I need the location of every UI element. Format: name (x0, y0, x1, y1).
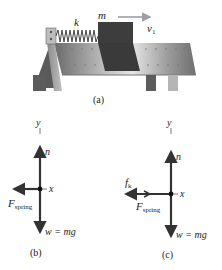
caption-b: (b) (30, 247, 42, 259)
y-axis-label: y (166, 117, 172, 128)
leg (146, 75, 156, 91)
block-shadow (98, 43, 140, 71)
normal-force-label: n (45, 146, 50, 157)
particle (169, 192, 174, 197)
leg (168, 75, 178, 91)
spring (56, 30, 98, 42)
block-mass (98, 22, 133, 43)
spring-force-label: Fspring (135, 200, 161, 214)
y-axis-label: y (35, 117, 41, 128)
x-axis-label: x (48, 183, 54, 194)
mass-label: m (98, 9, 106, 21)
friction-force-label: fk (125, 176, 132, 190)
free-body-diagram-b (14, 128, 47, 232)
x-axis-label: x (179, 188, 185, 199)
weight-label: w = mg (176, 229, 207, 240)
caption-a: (a) (93, 94, 104, 106)
velocity-label: v1 (147, 22, 156, 36)
caption-c: (c) (162, 249, 173, 261)
spring-anchor (46, 28, 56, 44)
spring-constant-label: k (74, 16, 80, 28)
weight-label: w = mg (45, 226, 76, 237)
spring-force-label: Fspring (7, 197, 33, 211)
particle (38, 187, 43, 192)
free-body-diagram-c (126, 128, 178, 236)
diagram-canvas: k m v1 (a) y x n Fspring w = mg (b) y x … (0, 0, 222, 270)
figure-a-apparatus (33, 17, 196, 91)
leg (33, 75, 46, 91)
normal-force-label: n (176, 151, 181, 162)
